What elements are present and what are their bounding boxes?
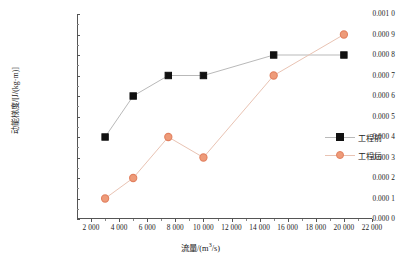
- x-axis-tick-label: 6 000: [139, 223, 156, 232]
- y-axis-tick-mark: [77, 199, 80, 200]
- y-axis-tick-label: 0.000 2: [372, 174, 395, 182]
- y-axis-tick-label: 0.000 3: [372, 154, 395, 162]
- x-axis-tick-mark: [119, 219, 120, 222]
- data-point: [270, 52, 276, 58]
- chart-figure: 动能梯度/[J/(kg·m)] 流量/(m3/s) 工程前工程后 2 0004 …: [0, 0, 401, 267]
- data-point: [165, 72, 171, 78]
- y-axis-minor-tick: [77, 24, 79, 25]
- y-axis-tick-mark: [77, 219, 80, 220]
- x-axis-tick-mark: [91, 219, 92, 222]
- y-axis-tick-label: 0.001 0: [372, 10, 395, 18]
- x-axis-minor-tick: [246, 219, 247, 221]
- y-axis-minor-tick: [77, 168, 79, 169]
- x-axis-minor-tick: [358, 219, 359, 221]
- x-axis-tick-label: 16 000: [277, 223, 298, 232]
- y-axis-minor-tick: [77, 209, 79, 210]
- y-axis-tick-mark: [77, 35, 80, 36]
- y-axis-tick-label: 0.000 7: [372, 72, 395, 80]
- data-point: [130, 93, 136, 99]
- x-axis-tick-label: 20 000: [334, 223, 355, 232]
- legend-marker-circle-icon: [336, 151, 344, 159]
- x-axis-tick-label: 12 000: [221, 223, 242, 232]
- series-2: [102, 31, 348, 202]
- y-axis-tick-mark: [77, 96, 80, 97]
- y-axis-tick-label: 0.000 9: [372, 31, 395, 39]
- x-axis-minor-tick: [218, 219, 219, 221]
- x-axis-minor-tick: [302, 219, 303, 221]
- x-axis-tick-mark: [344, 219, 345, 222]
- y-axis-tick-label: 0.000 8: [372, 51, 395, 59]
- x-axis-tick-mark: [147, 219, 148, 222]
- x-axis-tick-label: 2 000: [83, 223, 100, 232]
- data-point: [270, 72, 277, 79]
- y-axis-tick-label: 0.000 0: [372, 215, 395, 223]
- legend-marker-square-icon: [336, 133, 344, 141]
- x-axis-minor-tick: [105, 219, 106, 221]
- y-axis-minor-tick: [77, 147, 79, 148]
- y-axis-tick-label: 0.000 1: [372, 195, 395, 203]
- y-axis-tick-mark: [77, 14, 80, 15]
- y-axis-tick-label: 0.000 5: [372, 113, 395, 121]
- x-axis-tick-mark: [175, 219, 176, 222]
- x-axis-minor-tick: [330, 219, 331, 221]
- series-line: [105, 35, 344, 199]
- data-point: [165, 133, 172, 140]
- x-axis-tick-mark: [232, 219, 233, 222]
- data-point: [130, 174, 137, 181]
- x-axis-minor-tick: [133, 219, 134, 221]
- data-point: [341, 52, 347, 58]
- y-axis-tick-mark: [77, 137, 80, 138]
- legend-swatch: [325, 149, 355, 161]
- data-point: [200, 72, 206, 78]
- y-axis-tick-mark: [77, 117, 80, 118]
- x-axis-tick-label: 18 000: [305, 223, 326, 232]
- y-axis-minor-tick: [77, 65, 79, 66]
- y-axis-tick-mark: [77, 55, 80, 56]
- x-axis-minor-tick: [189, 219, 190, 221]
- x-axis-minor-tick: [274, 219, 275, 221]
- y-axis-tick-label: 0.000 6: [372, 92, 395, 100]
- y-axis-minor-tick: [77, 127, 79, 128]
- x-axis-tick-mark: [260, 219, 261, 222]
- x-axis-tick-mark: [288, 219, 289, 222]
- x-axis-tick-label: 14 000: [249, 223, 270, 232]
- x-axis-tick-mark: [203, 219, 204, 222]
- x-axis-tick-mark: [316, 219, 317, 222]
- data-point: [102, 195, 109, 202]
- series-line: [105, 55, 344, 137]
- y-axis-tick-mark: [77, 76, 80, 77]
- x-axis-tick-label: 4 000: [111, 223, 128, 232]
- y-axis-minor-tick: [77, 106, 79, 107]
- x-axis-tick-label: 10 000: [193, 223, 214, 232]
- legend-swatch: [325, 131, 355, 143]
- series-1: [102, 52, 347, 140]
- y-axis-minor-tick: [77, 188, 79, 189]
- data-point: [340, 31, 347, 38]
- x-axis-tick-label: 22 000: [362, 223, 383, 232]
- data-point: [200, 154, 207, 161]
- y-axis-minor-tick: [77, 45, 79, 46]
- data-point: [102, 134, 108, 140]
- y-axis-tick-label: 0.000 4: [372, 133, 395, 141]
- y-axis-tick-mark: [77, 158, 80, 159]
- x-axis-tick-label: 8 000: [167, 223, 184, 232]
- x-axis-minor-tick: [161, 219, 162, 221]
- y-axis-tick-mark: [77, 178, 80, 179]
- y-axis-minor-tick: [77, 86, 79, 87]
